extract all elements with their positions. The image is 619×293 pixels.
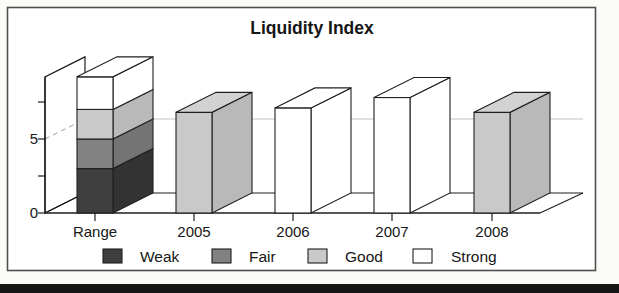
legend-label-good: Good bbox=[345, 248, 383, 265]
bar-2007-side-strong bbox=[410, 78, 450, 213]
x-label-2005: 2005 bbox=[177, 223, 210, 240]
bar-2006-side-strong bbox=[311, 88, 351, 213]
bar-2008-side-good bbox=[510, 92, 550, 213]
bar-range-front-weak bbox=[77, 169, 113, 213]
bar-range-front-fair bbox=[77, 139, 113, 169]
legend-swatch-weak bbox=[103, 249, 122, 263]
legend-swatch-good bbox=[308, 249, 327, 263]
x-label-2006: 2006 bbox=[276, 223, 309, 240]
bar-2005-side-good bbox=[212, 92, 252, 213]
x-label-2008: 2008 bbox=[475, 223, 508, 240]
bar-2005 bbox=[176, 92, 252, 213]
x-label-Range: Range bbox=[73, 223, 117, 240]
bar-2007 bbox=[374, 78, 450, 213]
bar-range-front-strong bbox=[77, 77, 113, 110]
bar-range bbox=[77, 57, 153, 213]
legend-label-weak: Weak bbox=[140, 248, 180, 265]
bar-2005-front-good bbox=[176, 112, 212, 213]
legend-label-fair: Fair bbox=[249, 248, 276, 265]
y-tick-label: 0 bbox=[30, 204, 38, 221]
legend-swatch-fair bbox=[212, 249, 231, 263]
chart-title: Liquidity Index bbox=[250, 18, 374, 38]
bar-2008-front-good bbox=[474, 112, 510, 213]
bar-range-front-good bbox=[77, 109, 113, 139]
page-black-band bbox=[0, 284, 619, 293]
bar-2006-front-strong bbox=[275, 108, 311, 213]
bar-2006 bbox=[275, 88, 351, 213]
legend-label-strong: Strong bbox=[451, 248, 497, 265]
legend-swatch-strong bbox=[413, 249, 432, 263]
bar-2008 bbox=[474, 92, 550, 213]
x-label-2007: 2007 bbox=[375, 223, 408, 240]
liquidity-index-chart: 05Range2005200620072008WeakFairGoodStron… bbox=[0, 0, 619, 293]
y-tick-label: 5 bbox=[30, 130, 38, 147]
bar-2007-front-strong bbox=[374, 98, 410, 213]
